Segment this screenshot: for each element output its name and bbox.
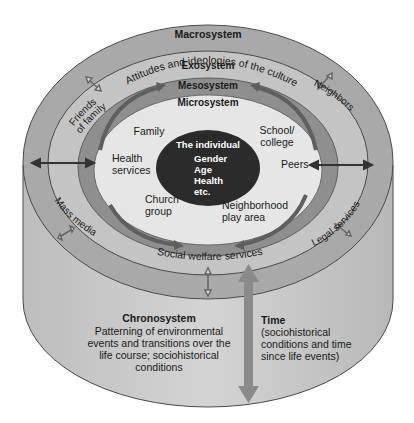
- chronosystem-line-4: conditions: [135, 361, 182, 373]
- macrosystem-label: Macrosystem: [174, 28, 241, 40]
- time-label: Time: [261, 314, 285, 326]
- neighborhood-label-line2: play area: [222, 211, 265, 223]
- individual-gender: Gender: [194, 153, 228, 164]
- chronosystem-label: Chronosystem: [122, 312, 196, 324]
- chronosystem-line-2: events and transitions over the: [87, 337, 230, 349]
- peers-label: Peers: [281, 158, 308, 170]
- mesosystem-label: Mesosystem: [178, 80, 238, 91]
- family-label: Family: [134, 125, 166, 137]
- exosystem-label: Exosystem: [182, 60, 235, 71]
- individual-age: Age: [194, 164, 212, 175]
- church-group-label-line2: group: [145, 205, 172, 217]
- ecological-systems-diagram: Macrosystem Attitudes and ideologies of …: [0, 0, 414, 423]
- health-services-label-line2: services: [112, 164, 151, 176]
- time-line-1: (sociohistorical: [261, 326, 330, 338]
- chronosystem-line-1: Patterning of environmental: [95, 325, 223, 337]
- church-group-label-line1: Church: [145, 193, 179, 205]
- microsystem-label: Microsystem: [177, 97, 238, 108]
- school-label-line2: college: [260, 136, 293, 148]
- time-line-3: since life events): [261, 350, 339, 362]
- chronosystem-line-3: life course; sociohistorical: [99, 349, 219, 361]
- health-services-label-line1: Health: [112, 152, 143, 164]
- individual-etc: etc.: [194, 186, 210, 197]
- neighborhood-label-line1: Neighborhood: [222, 199, 288, 211]
- individual-health: Health: [194, 175, 223, 186]
- individual-label: The individual: [176, 139, 240, 150]
- school-label-line1: School/: [259, 124, 294, 136]
- time-line-2: conditions and time: [261, 338, 352, 350]
